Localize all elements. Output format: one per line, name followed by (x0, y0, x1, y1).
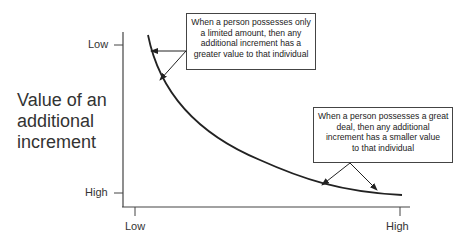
callout-limited-line-3: additional increment has a (191, 38, 311, 49)
callout-great-deal: When a person possesses a great deal, th… (313, 107, 453, 163)
callout-great-line-4: to that individual (318, 143, 448, 154)
x-tick-label-low: Low (125, 220, 145, 232)
callout-great-line-1: When a person possesses a great (318, 111, 448, 122)
y-tick-label-high: High (85, 186, 108, 198)
y-axis-title-line-3: increment (17, 132, 107, 153)
callout-limited-line-1: When a person possesses only (191, 17, 311, 28)
x-tick-label-high: High (386, 220, 409, 232)
callout-limited-line-4: greater value to that individual (191, 49, 311, 60)
y-axis-title-line-2: additional (17, 111, 107, 132)
arrow-bottom-right (350, 163, 377, 190)
y-tick-label-low: Low (88, 38, 108, 50)
callout-limited-line-2: a limited amount, then any (191, 28, 311, 39)
y-axis-title: Value of an additional increment (17, 90, 107, 153)
y-axis-title-line-1: Value of an (17, 90, 107, 111)
arrow-top-diagonal (160, 51, 186, 80)
callout-limited-amount: When a person possesses only a limited a… (186, 13, 316, 70)
callout-great-line-2: deal, then any additional (318, 122, 448, 133)
callout-great-line-3: increment has a smaller value (318, 132, 448, 143)
arrow-bottom-left (322, 163, 350, 185)
